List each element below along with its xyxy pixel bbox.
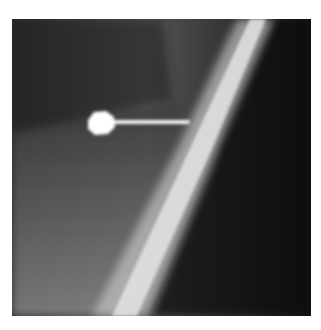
radiograph-image xyxy=(12,19,311,316)
